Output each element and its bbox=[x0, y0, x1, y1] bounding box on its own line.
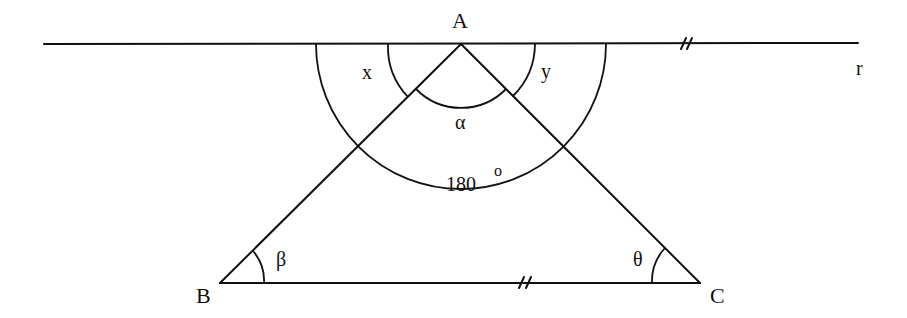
angle-label-theta: θ bbox=[633, 248, 643, 270]
angle-x-arc bbox=[388, 44, 408, 97]
point-label-b: B bbox=[196, 283, 211, 308]
angle-theta-arc bbox=[652, 248, 665, 283]
angle-label-alpha: α bbox=[455, 111, 466, 133]
angle-label-180: 180 bbox=[446, 173, 476, 195]
angle-beta-arc bbox=[253, 251, 264, 283]
angle-label-x: x bbox=[362, 61, 372, 83]
angle-alpha-arc bbox=[416, 89, 506, 108]
angle-label-y: y bbox=[541, 60, 551, 83]
degree-mark: o bbox=[494, 162, 502, 179]
line-r bbox=[44, 43, 858, 44]
point-label-c: C bbox=[710, 283, 725, 308]
angle-label-beta: β bbox=[276, 248, 286, 271]
side-AB bbox=[220, 44, 461, 283]
line-label-r: r bbox=[856, 57, 863, 79]
angle-y-arc bbox=[513, 44, 535, 96]
point-label-a: A bbox=[452, 8, 468, 33]
triangle-parallel-line-diagram: A B C r x y α 180 o β θ bbox=[0, 0, 907, 318]
